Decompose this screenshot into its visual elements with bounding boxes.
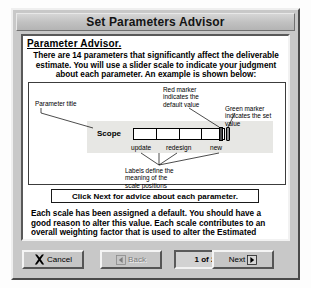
click-next-advice-label: Click Next for advice about each paramet… <box>72 192 238 201</box>
screenshot-page: Set Parameters Advisor Parameter Advisor… <box>0 0 311 288</box>
closing-paragraph: Each scale has been assigned a default. … <box>31 209 281 241</box>
back-button-label: Back <box>128 255 146 264</box>
intro-paragraph: There are 14 parameters that significant… <box>33 51 279 80</box>
diagram-parameter-name: Scope <box>97 129 121 138</box>
annotation-green-marker: Green marker indicates the set value <box>225 105 271 127</box>
section-heading: Parameter Advisor. <box>27 38 121 49</box>
cancel-button-label: Cancel <box>47 255 72 264</box>
next-button-label: Next <box>229 255 245 264</box>
back-button[interactable]: Back <box>100 250 162 269</box>
dialog-window: Set Parameters Advisor Parameter Advisor… <box>11 8 300 280</box>
slider-scale[interactable] <box>133 128 225 140</box>
button-bar: Cancel Back 1 of 2 Next <box>16 246 295 276</box>
annotation-scale-labels: Labels define the meaning of the scale p… <box>125 167 174 189</box>
example-diagram: Parameter title Red marker indicates the… <box>28 82 286 185</box>
title-bar: Set Parameters Advisor <box>16 13 295 31</box>
scale-label-update: update <box>131 144 151 151</box>
close-icon <box>34 254 45 265</box>
click-next-advice-button[interactable]: Click Next for advice about each paramet… <box>51 189 259 203</box>
chevron-left-icon <box>116 255 126 265</box>
slider-segment[interactable] <box>134 129 157 139</box>
cancel-button[interactable]: Cancel <box>22 250 84 269</box>
slider-segment[interactable] <box>180 129 203 139</box>
chevron-right-icon <box>247 255 257 265</box>
set-value-marker[interactable] <box>226 127 230 141</box>
content-panel: Parameter Advisor. There are 14 paramete… <box>21 34 290 241</box>
scale-label-redesign: redesign <box>166 144 191 151</box>
default-value-marker <box>219 127 223 141</box>
slider-segment[interactable] <box>157 129 180 139</box>
next-button[interactable]: Next <box>212 250 274 269</box>
window-title: Set Parameters Advisor <box>86 15 224 29</box>
annotation-parameter-title: Parameter title <box>35 100 77 107</box>
annotation-red-marker: Red marker indicates the default value <box>163 86 199 108</box>
scale-label-new: new <box>210 144 222 151</box>
